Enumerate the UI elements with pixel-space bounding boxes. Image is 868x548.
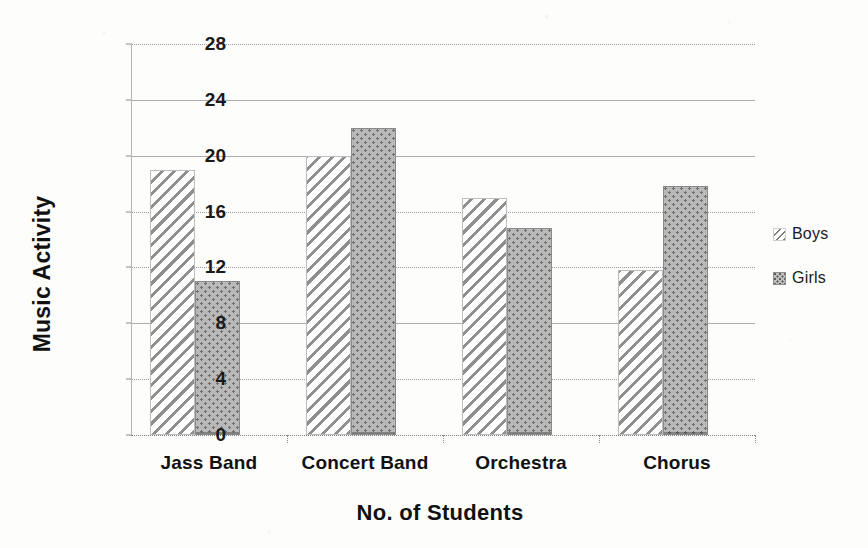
legend-item-boys[interactable]: Boys [773,225,828,243]
legend-item-girls[interactable]: Girls [773,269,828,287]
bar-girls-jass-band[interactable] [195,281,240,435]
y-axis-tick-label: 8 [156,312,226,334]
y-axis-tick-label: 4 [156,368,226,390]
y-axis-tick-label: 24 [156,89,226,111]
bar-boys-chorus[interactable] [618,270,663,435]
bar-chart: Music Activity No. of Students 048121620… [0,0,868,548]
y-axis-tick-label: 0 [156,424,226,446]
bar-boys-orchestra[interactable] [462,198,507,435]
bar-boys-concert-band[interactable] [306,156,351,435]
x-axis-tick-mark [443,435,444,443]
bar-girls-chorus[interactable] [663,186,708,435]
dotted-fill-swatch-icon [773,272,786,285]
y-axis-title: Music Activity [29,154,56,394]
bar-girls-orchestra[interactable] [507,228,552,435]
y-axis-tick-label: 16 [156,201,226,223]
diagonal-hatch-swatch-icon [773,228,786,241]
bar-girls-concert-band[interactable] [351,128,396,435]
legend: Boys Girls [773,225,828,313]
x-axis-title: No. of Students [120,500,760,526]
y-axis-tick-label: 28 [156,33,226,55]
y-axis-tick-label: 20 [156,145,226,167]
x-axis-tick-mark [287,435,288,443]
x-axis-tick-mark [599,435,600,443]
x-axis-category-label: Chorus [582,452,772,474]
legend-label-girls: Girls [792,269,826,287]
legend-label-boys: Boys [792,225,828,243]
x-axis-tick-mark [755,435,756,443]
y-axis-tick-label: 12 [156,256,226,278]
